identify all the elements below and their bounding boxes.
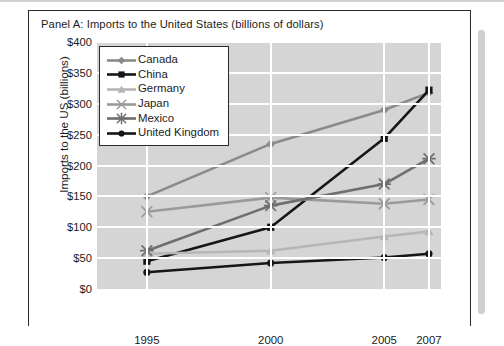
y-axis-tick-label: $150 bbox=[67, 190, 92, 202]
legend-item: Japan bbox=[106, 96, 219, 111]
legend-label: China bbox=[137, 68, 168, 80]
y-axis-tick-label: $350 bbox=[67, 67, 92, 79]
chart-legend: CanadaChinaGermanyJapanMexicoUnited King… bbox=[99, 46, 229, 146]
x-axis-tick-label: 2005 bbox=[372, 334, 397, 346]
legend-item: Mexico bbox=[106, 110, 219, 125]
legend-label: Germany bbox=[137, 82, 185, 94]
legend-marker-icon bbox=[106, 126, 137, 139]
y-axis-tick-label: $400 bbox=[67, 36, 92, 48]
y-axis-tick-label: $100 bbox=[67, 221, 92, 233]
vertical-scrollbar[interactable] bbox=[478, 30, 485, 314]
x-axis-tick-label: 1995 bbox=[134, 334, 159, 346]
top-rule bbox=[0, 0, 504, 2]
series-line bbox=[147, 198, 429, 212]
legend-marker-icon bbox=[106, 67, 137, 80]
y-axis-ticks: $0$50$100$150$200$250$300$350$400 bbox=[36, 42, 92, 289]
y-axis-tick-label: $200 bbox=[67, 160, 92, 172]
x-axis-tick-label: 2000 bbox=[258, 334, 283, 346]
legend-marker-icon bbox=[106, 53, 137, 66]
legend-item: Canada bbox=[106, 52, 219, 67]
gridline-vertical bbox=[383, 42, 385, 289]
page-title: Panel A: Imports to the United States (b… bbox=[41, 18, 324, 30]
legend-label: Mexico bbox=[137, 112, 174, 124]
legend-item: Germany bbox=[106, 81, 219, 96]
legend-item: United Kingdom bbox=[106, 125, 219, 140]
legend-label: Canada bbox=[137, 53, 178, 65]
gridline-vertical bbox=[270, 42, 272, 289]
legend-label: Japan bbox=[137, 97, 169, 109]
y-axis-tick-label: $250 bbox=[67, 129, 92, 141]
legend-label: United Kingdom bbox=[137, 126, 219, 138]
y-axis-tick-label: $50 bbox=[73, 252, 92, 264]
legend-marker-icon bbox=[106, 82, 137, 95]
y-axis-tick-label: $0 bbox=[80, 283, 92, 295]
x-axis-tick-label: 2007 bbox=[416, 334, 441, 346]
legend-marker-icon bbox=[106, 111, 137, 124]
gridline-vertical bbox=[428, 42, 430, 289]
legend-marker-icon bbox=[106, 97, 137, 110]
legend-item: China bbox=[106, 67, 219, 82]
y-axis-tick-label: $300 bbox=[67, 98, 92, 110]
